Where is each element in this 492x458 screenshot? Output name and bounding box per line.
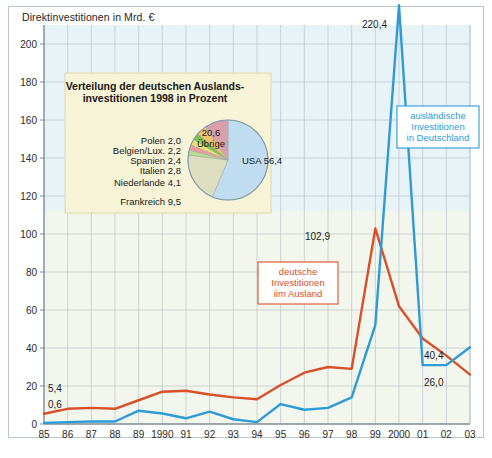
- x-axis-tick-label: 94: [251, 429, 263, 440]
- pie-label-uebrige-value: 20,6: [202, 127, 221, 138]
- pie-title-line2: investitionen 1998 in Prozent: [83, 92, 228, 104]
- pie-label-usa: USA 56,4: [242, 155, 282, 166]
- y-axis-tick-label: 180: [20, 77, 37, 88]
- y-axis-tick-label: 160: [20, 115, 37, 126]
- y-axis-tick-label: 0: [31, 419, 37, 430]
- x-axis-tick-label: 88: [109, 429, 121, 440]
- data-point-label: 5,4: [48, 383, 62, 394]
- x-axis-tick-label: 03: [464, 429, 476, 440]
- x-axis-tick-label: 91: [180, 429, 192, 440]
- x-axis-tick-label: 92: [204, 429, 216, 440]
- x-axis-tick-label: 96: [299, 429, 311, 440]
- x-axis-tick-label: 87: [86, 429, 98, 440]
- pie-label-outside: Niederlande 4,1: [114, 177, 181, 188]
- pie-label-outside: Frankreich 9,5: [120, 196, 181, 207]
- x-axis-tick-label: 93: [228, 429, 240, 440]
- bottom-edge-artifact: [8, 446, 338, 452]
- y-axis-tick-label: 20: [26, 381, 38, 392]
- pie-title-line1: Verteilung der deutschen Auslands-: [66, 80, 245, 92]
- y-axis-tick-label: 120: [20, 191, 37, 202]
- x-axis-tick-label: 99: [370, 429, 382, 440]
- data-point-label: 220,4: [362, 19, 387, 30]
- y-axis-tick-label: 60: [26, 305, 38, 316]
- data-point-label: 0,6: [48, 399, 62, 410]
- y-axis-tick-label: 140: [20, 153, 37, 164]
- x-axis-tick-label: 97: [322, 429, 334, 440]
- x-axis-tick-label: 95: [275, 429, 287, 440]
- x-axis-tick-label: 01: [417, 429, 429, 440]
- pie-label-outside: Italien 2,8: [140, 165, 181, 176]
- legend-german-investment-line: deutsche: [279, 266, 318, 277]
- data-point-label: 26,0: [424, 377, 444, 388]
- data-point-label: 102,9: [305, 231, 330, 242]
- legend-german-investment-line: iim Ausland: [274, 288, 323, 299]
- y-axis-tick-label: 200: [20, 39, 37, 50]
- y-axis-tick-label: 80: [26, 267, 38, 278]
- y-axis-tick-label: 40: [26, 343, 38, 354]
- pie-label-uebrige-name: Übrige: [197, 138, 225, 149]
- x-axis-tick-label: 86: [62, 429, 74, 440]
- data-point-label: 40,4: [424, 350, 444, 361]
- x-axis-tick-label: 2000: [388, 429, 411, 440]
- chart-canvas: 0204060801001201401601802008586878889199…: [0, 0, 492, 458]
- x-axis-tick-label: 85: [38, 429, 50, 440]
- y-axis-tick-label: 100: [20, 229, 37, 240]
- legend-foreign-investment-line: Investitionen: [411, 121, 464, 132]
- legend-foreign-investment-line: ausländische: [410, 110, 465, 121]
- x-axis-tick-label: 98: [346, 429, 358, 440]
- legend-german-investment-line: Investitionen: [271, 277, 324, 288]
- legend-foreign-investment-line: in Deutschland: [407, 132, 470, 143]
- x-axis-tick-label: 1990: [151, 429, 174, 440]
- x-axis-tick-label: 89: [133, 429, 145, 440]
- chart-screenshot: Direktinvestitionen in Mrd. € 0204060801…: [0, 0, 492, 458]
- x-axis-tick-label: 02: [441, 429, 453, 440]
